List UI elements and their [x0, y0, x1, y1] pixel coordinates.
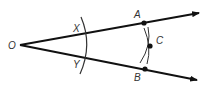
upper-ray	[20, 13, 199, 45]
angle-bisector-diagram: O X Y A B C	[0, 0, 208, 100]
label-c: C	[156, 35, 164, 46]
label-a: A	[133, 9, 141, 20]
diagram-svg: O X Y A B C	[0, 0, 208, 100]
label-x: X	[72, 23, 80, 34]
label-b: B	[134, 72, 141, 83]
lower-ray	[20, 45, 197, 80]
label-o: O	[8, 40, 16, 51]
label-y: Y	[73, 59, 81, 70]
point-b	[142, 66, 147, 71]
point-c	[147, 43, 152, 48]
point-a	[141, 20, 146, 25]
arc-xy	[80, 17, 87, 74]
